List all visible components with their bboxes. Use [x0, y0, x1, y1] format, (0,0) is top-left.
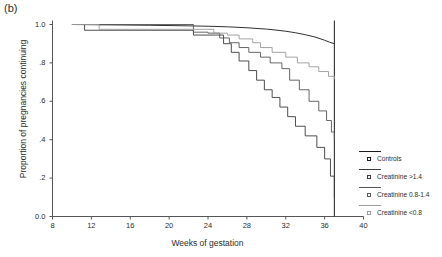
- legend-marker-icon: [367, 157, 371, 161]
- figure-panel-b: (b) Proportion of pregnancies continuing…: [0, 0, 442, 257]
- legend-label: Creatinine 0.8-1.4: [377, 191, 429, 198]
- y-tick-label: .6: [24, 96, 46, 105]
- series-line-0: [72, 25, 334, 44]
- x-tick-label: 12: [82, 221, 100, 230]
- legend-line-swatch: [359, 187, 381, 188]
- legend-label: Controls: [377, 155, 402, 162]
- x-tick-label: 28: [238, 221, 256, 230]
- y-tick-label: 1.0: [24, 20, 46, 29]
- series-line-2: [72, 25, 334, 140]
- y-tick-label: .4: [24, 135, 46, 144]
- y-tick-label: .8: [24, 58, 46, 67]
- x-tick-label: 20: [160, 221, 178, 230]
- legend-label: Creatinine >1.4: [377, 173, 422, 180]
- series-line-1: [72, 25, 334, 198]
- legend-line-swatch: [359, 151, 381, 152]
- legend-marker-icon: [367, 175, 371, 179]
- y-tick-label: 0.0: [24, 212, 46, 221]
- legend-item-3[interactable]: Creatinine <0.8: [357, 204, 442, 222]
- legend-line-swatch: [359, 169, 381, 170]
- x-tick-label: 8: [44, 221, 62, 230]
- x-tick-label: 24: [199, 221, 217, 230]
- chart-legend: ControlsCreatinine >1.4Creatinine 0.8-1.…: [357, 150, 442, 222]
- legend-marker-icon: [367, 193, 371, 197]
- x-tick-label: 36: [316, 221, 334, 230]
- legend-item-0[interactable]: Controls: [357, 150, 442, 168]
- y-tick-label: .2: [24, 173, 46, 182]
- legend-marker-icon: [367, 211, 371, 215]
- legend-line-swatch: [359, 205, 381, 206]
- x-tick-label: 32: [277, 221, 295, 230]
- legend-item-2[interactable]: Creatinine 0.8-1.4: [357, 186, 442, 204]
- legend-item-1[interactable]: Creatinine >1.4: [357, 168, 442, 186]
- legend-label: Creatinine <0.8: [377, 209, 422, 216]
- x-tick-label: 16: [121, 221, 139, 230]
